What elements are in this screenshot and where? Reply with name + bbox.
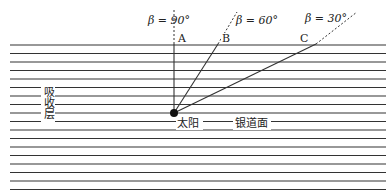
sun-point [170,109,178,117]
beta-label-a: β = 90° [147,14,190,27]
labels: 吸收层 太阳 银道面 [41,84,271,130]
absorption-layer-label: 吸收层 [42,86,56,120]
sun-label: 太阳 [177,117,199,130]
galactic-absorption-diagram: Aβ = 90°Bβ = 60°Cβ = 30° 吸收层 太阳 银道面 [0,0,390,192]
beta-label-b: β = 60° [235,14,278,27]
point-label-c: C [300,32,308,45]
point-label-a: A [177,32,187,45]
galactic-plane-label: 银道面 [235,116,268,130]
beta-label-c: β = 30° [304,12,347,25]
point-label-b: B [222,32,230,45]
